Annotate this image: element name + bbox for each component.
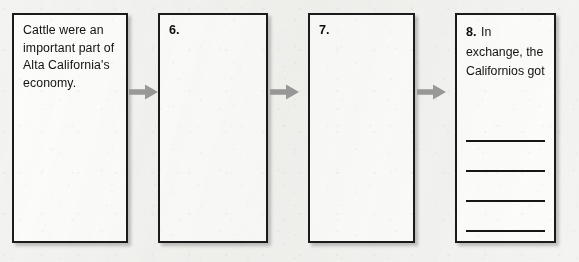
flow-box-4-answer-lines[interactable]	[466, 140, 545, 232]
flow-box-3[interactable]: 7.	[308, 13, 415, 243]
answer-line-3[interactable]	[466, 200, 545, 202]
answer-line-1[interactable]	[466, 140, 545, 142]
flow-box-3-number: 7.	[319, 22, 404, 40]
flow-box-2-answer-area[interactable]	[169, 40, 257, 253]
flow-chart-diagram: Cattle were an important part of Alta Ca…	[0, 0, 579, 262]
flow-box-1-text: Cattle were an important part of Alta Ca…	[23, 22, 117, 92]
flow-box-3-content: 7.	[310, 15, 413, 241]
flow-box-2-content: 6.	[160, 15, 266, 241]
answer-line-4[interactable]	[466, 230, 545, 232]
flow-box-4[interactable]: 8. In exchange, the Californios got	[455, 13, 556, 243]
flow-box-4-number: 8.	[466, 25, 477, 39]
flow-box-2[interactable]: 6.	[158, 13, 268, 243]
flow-box-1[interactable]: Cattle were an important part of Alta Ca…	[12, 13, 128, 243]
flow-box-3-answer-area[interactable]	[319, 40, 404, 253]
arrow-right-icon-3	[417, 83, 447, 101]
arrow-right-icon-2	[270, 83, 300, 101]
flow-box-2-number: 6.	[169, 22, 257, 40]
flow-box-4-prompt: In exchange, the Californios got	[466, 25, 545, 78]
flow-box-4-content: 8. In exchange, the Californios got	[457, 15, 554, 241]
arrow-right-icon-1	[129, 83, 159, 101]
answer-line-2[interactable]	[466, 170, 545, 172]
flow-box-1-content: Cattle were an important part of Alta Ca…	[14, 15, 126, 241]
flow-box-4-heading: 8. In exchange, the Californios got	[466, 22, 545, 81]
